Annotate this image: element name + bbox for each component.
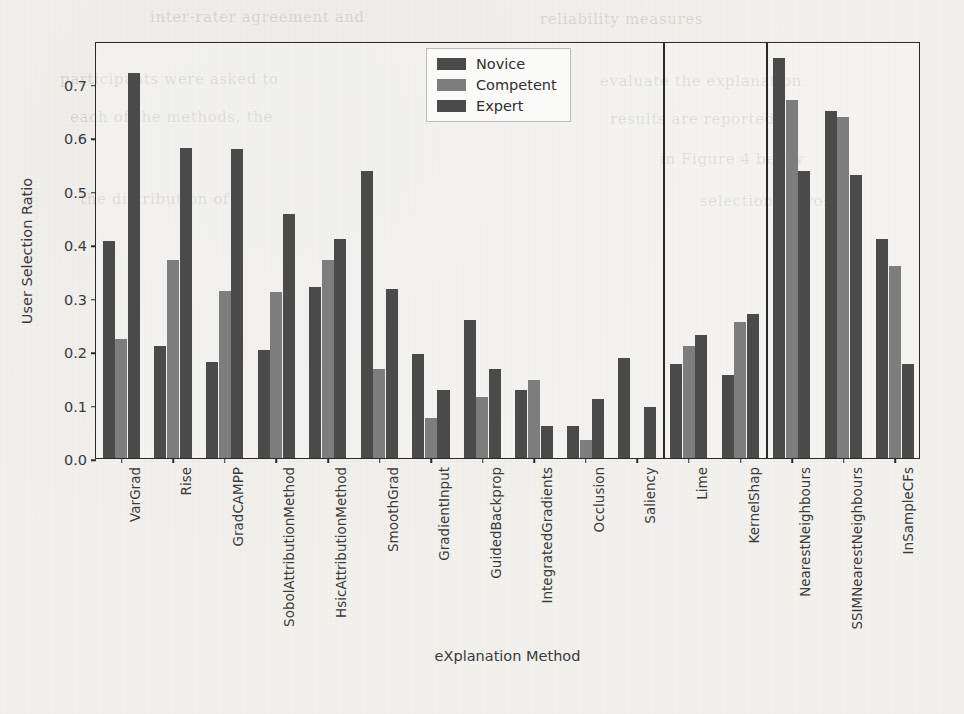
legend-item: Competent [437,77,557,93]
x-axis-title: eXplanation Method [95,648,920,664]
legend-swatch [437,79,466,91]
bar [283,214,295,458]
x-axis-tick-mark [637,458,639,463]
chart-legend: NoviceCompetentExpert [426,48,571,122]
x-axis-tick-label: KernelShap [746,467,762,543]
y-axis-tick-mark [91,406,96,408]
bar [592,399,604,458]
y-axis-tick-mark [91,85,96,87]
bar [361,171,373,458]
bar [683,346,695,458]
x-axis-tick-label: GradientInput [436,467,452,561]
x-axis-tick-mark [121,458,123,463]
x-axis-tick-mark [173,458,175,463]
bar [206,362,218,458]
legend-label: Competent [476,77,557,93]
y-axis-tick-label: 0.6 [64,131,87,147]
x-axis-tick-label: VarGrad [127,467,143,522]
bar [876,239,888,458]
bar [644,407,656,458]
y-axis-tick-mark [91,352,96,354]
bar [128,73,140,458]
bar [515,390,527,458]
bar [747,314,759,458]
bar [322,260,334,458]
x-axis-tick-label: SobolAttributionMethod [281,467,297,627]
y-axis-tick-label: 0.0 [64,452,87,468]
x-axis-tick-mark [894,458,896,463]
x-axis-tick-mark [379,458,381,463]
x-axis-tick-label: Rise [178,467,194,495]
x-axis-tick-label: Saliency [642,467,658,524]
bar [373,369,385,458]
bar [541,426,553,458]
x-axis-tick-mark [534,458,536,463]
x-axis-tick-label: SSIMNearestNeighbours [849,467,865,630]
bar [528,380,540,458]
bar [489,369,501,458]
x-axis-tick-mark [224,458,226,463]
legend-swatch [437,100,466,112]
bar [270,292,282,458]
y-axis-tick-label: 0.4 [64,238,87,254]
legend-item: Expert [437,98,557,114]
bar [425,418,437,458]
y-axis-title: User Selection Ratio [16,42,38,459]
x-axis-tick-mark [791,458,793,463]
bar [889,266,901,458]
bar [437,390,449,458]
bar [309,287,321,458]
bar [412,354,424,458]
legend-label: Novice [476,56,525,72]
bar [386,289,398,458]
y-axis-tick-mark [91,138,96,140]
bar [103,241,115,458]
y-axis-tick-label: 0.2 [64,345,87,361]
x-axis-tick-label: HsicAttributionMethod [333,467,349,618]
x-axis-tick-label: InSampleCFs [900,467,916,554]
x-axis-tick-mark [276,458,278,463]
bar [670,364,682,458]
bar [219,291,231,458]
x-axis-tick-label: GuidedBackprop [488,467,504,579]
bar [618,358,630,458]
x-axis-tick-label: Occlusion [591,467,607,532]
x-axis-tick-label: SmoothGrad [385,467,401,552]
bar [154,346,166,458]
bar [773,58,785,458]
y-axis-title-text: User Selection Ratio [19,177,35,323]
x-axis-tick-label: GradCAMPP [230,467,246,546]
x-axis-title-text: eXplanation Method [435,648,581,664]
bar [476,397,488,458]
bar [180,148,192,458]
x-axis-tick-label: IntegratedGradients [539,467,555,604]
bar [567,426,579,458]
group-separator-line [663,43,665,458]
bar [580,440,592,458]
bar [231,149,243,458]
bar [798,171,810,458]
bar [334,239,346,458]
x-axis-tick-mark [430,458,432,463]
y-axis-tick-label: 0.7 [64,78,87,94]
x-axis-tick-mark [585,458,587,463]
y-axis-tick-mark [91,459,96,461]
x-axis-tick-label: NearestNeighbours [797,467,813,597]
bar [167,260,179,458]
y-axis-tick-label: 0.5 [64,185,87,201]
y-axis-tick-mark [91,299,96,301]
x-axis-tick-mark [327,458,329,463]
y-axis-tick-label: 0.1 [64,399,87,415]
y-axis-tick-mark [91,245,96,247]
legend-label: Expert [476,98,524,114]
bar [786,100,798,458]
bar-chart-figure: User Selection Ratio 0.00.10.20.30.40.50… [0,0,964,714]
bar [695,335,707,458]
x-axis-tick-label: Lime [694,467,710,500]
bar [837,117,849,458]
y-axis-tick-label: 0.3 [64,292,87,308]
legend-swatch [437,58,466,70]
bar [258,350,270,458]
y-axis-tick-mark [91,192,96,194]
x-axis-tick-mark [688,458,690,463]
